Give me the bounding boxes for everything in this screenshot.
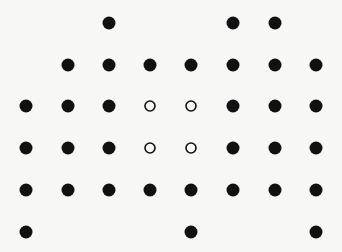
filled-dot xyxy=(62,184,75,197)
filled-dot xyxy=(103,184,116,197)
filled-dot xyxy=(62,59,75,72)
open-dot xyxy=(145,101,155,111)
filled-dot xyxy=(20,100,33,113)
filled-dot xyxy=(144,59,157,72)
filled-dot xyxy=(20,142,33,155)
filled-dot xyxy=(103,59,116,72)
filled-dot xyxy=(227,100,240,113)
filled-dot xyxy=(310,100,323,113)
filled-dot xyxy=(269,100,282,113)
filled-dot xyxy=(227,142,240,155)
filled-dot xyxy=(227,17,240,30)
filled-dot xyxy=(185,226,198,239)
filled-dot xyxy=(269,17,282,30)
filled-dot xyxy=(20,184,33,197)
filled-dot xyxy=(227,184,240,197)
open-dot xyxy=(186,143,196,153)
filled-dot xyxy=(185,184,198,197)
open-dot xyxy=(145,143,155,153)
filled-dot xyxy=(310,59,323,72)
filled-dot xyxy=(269,59,282,72)
filled-dot xyxy=(227,59,240,72)
filled-dot xyxy=(62,100,75,113)
dot-lattice-figure xyxy=(0,0,342,252)
filled-dot xyxy=(269,184,282,197)
filled-dot xyxy=(144,184,157,197)
filled-dot xyxy=(310,142,323,155)
open-dot xyxy=(186,101,196,111)
filled-dot xyxy=(62,142,75,155)
dot-lattice xyxy=(0,0,342,252)
filled-dot xyxy=(20,226,33,239)
filled-dot xyxy=(103,17,116,30)
filled-dot xyxy=(185,59,198,72)
filled-dot xyxy=(310,226,323,239)
filled-dot xyxy=(103,100,116,113)
filled-dot xyxy=(269,142,282,155)
filled-dot xyxy=(103,142,116,155)
filled-dot xyxy=(310,184,323,197)
